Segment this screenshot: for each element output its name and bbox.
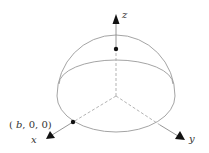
top-point <box>114 47 118 51</box>
x-axis-dashed <box>73 96 116 122</box>
b00-point <box>71 120 75 124</box>
y-axis-solid <box>160 125 178 136</box>
equator-front <box>57 96 175 132</box>
x-arrow-icon <box>46 131 55 139</box>
y-axis-label: y <box>188 133 195 144</box>
x-axis-label: x <box>31 134 37 145</box>
point-label: (b, 0, 0) <box>9 119 52 130</box>
z-axis-label: z <box>121 9 128 20</box>
z-arrow-icon <box>113 14 120 24</box>
y-axis-dashed <box>116 96 160 125</box>
hemisphere-diagram: z x y (b, 0, 0) <box>0 0 209 153</box>
x-axis-solid <box>52 122 73 135</box>
